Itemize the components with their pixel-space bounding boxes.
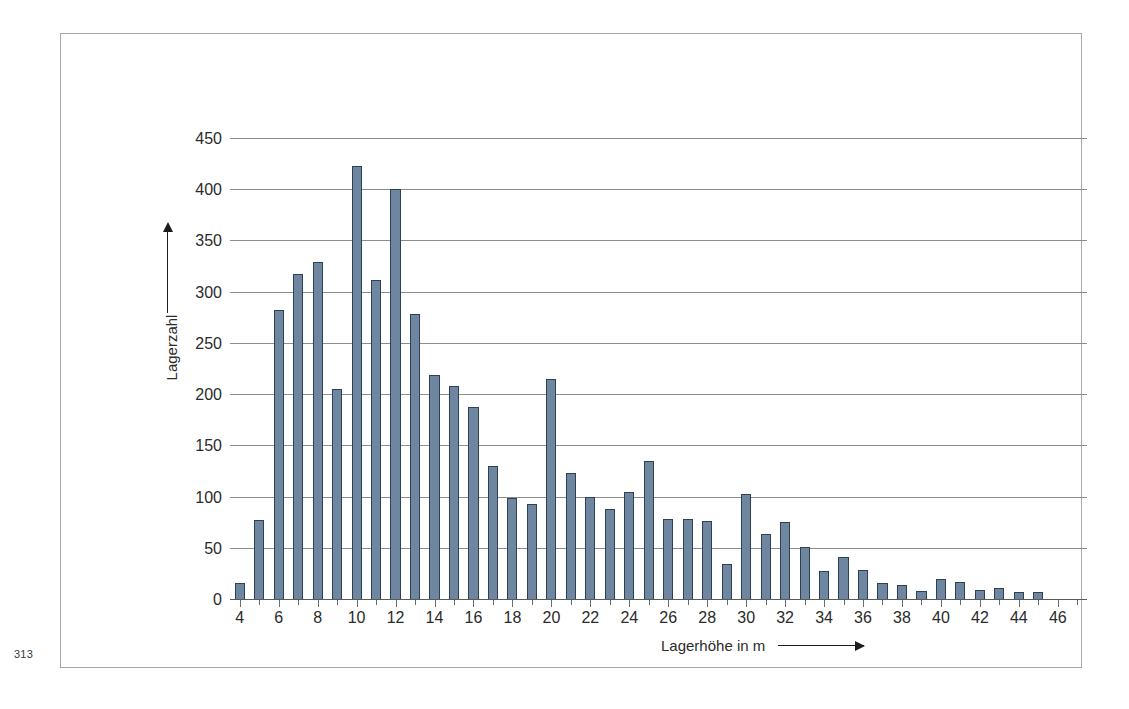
x-axis-tick (240, 600, 241, 607)
x-axis-tick (298, 600, 299, 605)
x-axis-tick-label: 20 (542, 609, 560, 627)
x-axis-tick (902, 600, 903, 607)
bar (254, 520, 264, 600)
x-axis-ticks (230, 600, 1087, 608)
x-axis-tick (727, 600, 728, 605)
bar (410, 314, 420, 600)
x-axis-tick (610, 600, 611, 605)
x-axis-tick (668, 600, 669, 607)
x-axis-tick (279, 600, 280, 607)
bar (877, 583, 887, 600)
bar (780, 522, 790, 600)
x-axis-tick-label: 4 (235, 609, 244, 627)
x-axis-tick (376, 600, 377, 605)
x-axis-tick-label: 44 (1010, 609, 1028, 627)
x-axis-tick-label: 28 (698, 609, 716, 627)
y-axis-tick-label: 200 (195, 386, 222, 404)
x-axis-tick (1019, 600, 1020, 607)
x-axis-tick-label: 18 (504, 609, 522, 627)
x-axis-tick-label: 22 (581, 609, 599, 627)
x-axis-tick-label: 40 (932, 609, 950, 627)
x-axis-tick (921, 600, 922, 605)
x-axis-tick (629, 600, 630, 607)
bar (527, 504, 537, 600)
x-axis-tick (805, 600, 806, 605)
bar (683, 519, 693, 600)
x-axis-tick (1077, 600, 1078, 605)
x-axis-tick (337, 600, 338, 605)
y-axis-tick-label: 350 (195, 232, 222, 250)
bar (274, 310, 284, 600)
x-axis-tick (454, 600, 455, 605)
y-axis-tick-label: 250 (195, 335, 222, 353)
bar (624, 492, 634, 600)
bar (352, 166, 362, 600)
bar (468, 407, 478, 600)
x-axis-tick-label: 46 (1049, 609, 1067, 627)
x-axis-tick-label: 24 (620, 609, 638, 627)
x-axis-tick (688, 600, 689, 605)
x-axis-tick (396, 600, 397, 607)
y-axis-tick-label: 100 (195, 489, 222, 507)
x-axis-tick (941, 600, 942, 607)
bar (371, 280, 381, 600)
x-axis-tick-label: 34 (815, 609, 833, 627)
y-axis-tick-label: 300 (195, 284, 222, 302)
bar (800, 547, 810, 600)
right-arrow-icon (778, 645, 864, 646)
x-axis-tick (707, 600, 708, 607)
x-axis-tick-label: 16 (465, 609, 483, 627)
bar (390, 189, 400, 600)
x-axis-tick (357, 600, 358, 607)
x-axis-tick-labels: 4681012141618202224262830323436384042444… (230, 609, 1087, 633)
x-axis-tick-label: 38 (893, 609, 911, 627)
x-axis-tick (259, 600, 260, 605)
bar (897, 585, 907, 600)
x-axis-tick (435, 600, 436, 607)
x-axis-tick (1038, 600, 1039, 605)
x-axis-tick (999, 600, 1000, 605)
bar (507, 498, 517, 600)
x-axis-tick (746, 600, 747, 607)
bar (488, 466, 498, 600)
x-axis-tick-label: 36 (854, 609, 872, 627)
gridline (230, 138, 1087, 139)
x-axis-tick (571, 600, 572, 605)
y-axis-tick-label: 0 (213, 591, 222, 609)
x-axis-tick (824, 600, 825, 607)
x-axis-tick (766, 600, 767, 605)
x-axis-tick (415, 600, 416, 605)
x-axis-tick (785, 600, 786, 607)
bar (722, 564, 732, 600)
x-axis-tick (551, 600, 552, 607)
bar (293, 274, 303, 600)
bar (819, 571, 829, 600)
x-axis-tick (649, 600, 650, 605)
bar (702, 521, 712, 600)
bar (936, 579, 946, 601)
x-axis-tick-label: 42 (971, 609, 989, 627)
bar (546, 379, 556, 600)
x-axis-title: Lagerhöhe in m (661, 637, 765, 654)
x-axis-tick (512, 600, 513, 607)
y-axis-tick-label: 150 (195, 437, 222, 455)
x-axis-tick (960, 600, 961, 605)
bar (955, 582, 965, 600)
bar (235, 583, 245, 600)
bar (838, 557, 848, 600)
bar (858, 570, 868, 600)
y-axis-tick-label: 400 (195, 181, 222, 199)
figure-frame: Lagerzahl 050100150200250300350400450 46… (60, 33, 1082, 668)
x-axis-tick-label: 12 (387, 609, 405, 627)
x-axis-tick (980, 600, 981, 607)
plot-area (230, 139, 1087, 600)
bar (332, 389, 342, 600)
bar (663, 519, 673, 600)
x-axis-tick (844, 600, 845, 605)
x-axis-tick-label: 32 (776, 609, 794, 627)
bar (761, 534, 771, 600)
x-axis-tick-label: 8 (313, 609, 322, 627)
bar (313, 262, 323, 600)
y-axis-tick-label: 450 (195, 130, 222, 148)
x-axis-tick (493, 600, 494, 605)
